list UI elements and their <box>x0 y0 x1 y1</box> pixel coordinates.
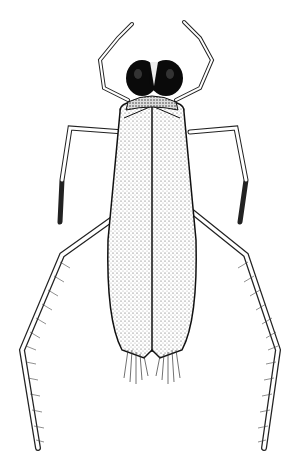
illustration-canvas <box>0 0 302 473</box>
tail-hair-fringe <box>124 350 180 384</box>
insect-illustration <box>0 0 302 473</box>
head <box>126 60 183 96</box>
